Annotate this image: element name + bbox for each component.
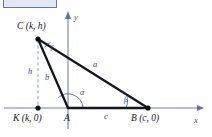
axis-label-y: y: [74, 13, 78, 22]
vertex-dot-k: [35, 105, 40, 110]
side-label-b: b: [45, 73, 49, 82]
side-label-c: c: [104, 112, 108, 121]
vertex-dot-b: [145, 105, 150, 110]
angle-label-beta: β: [124, 96, 128, 104]
side-label-h: h: [28, 67, 32, 76]
geometry-figure: C (k, h) K (k, 0) A B (c, 0) a b c h γ α…: [0, 0, 212, 137]
axis-label-x: x: [194, 116, 198, 125]
side-label-a: a: [93, 60, 97, 69]
point-label-k: K (k, 0): [13, 114, 42, 124]
side-a-line: [38, 39, 148, 108]
angle-label-gamma: γ: [50, 43, 53, 51]
triangle-outline: [38, 39, 148, 108]
point-label-a: A: [64, 114, 70, 124]
point-label-b: B (c, 0): [131, 114, 159, 124]
angle-label-alpha: α: [80, 89, 84, 97]
point-label-c: C (k, h): [17, 22, 46, 32]
vertex-dot-c: [35, 36, 40, 41]
y-axis: [65, 11, 71, 129]
